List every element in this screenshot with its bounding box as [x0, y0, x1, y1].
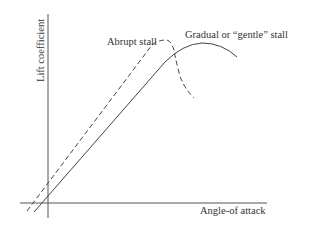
- y-axis-label: Lift coefficient: [35, 19, 46, 82]
- abrupt-stall-curve: [27, 40, 194, 211]
- gradual-stall-curve: [34, 43, 237, 212]
- gradual-stall-label: Gradual or “gentle” stall: [185, 30, 288, 41]
- x-axis-label: Angle-of attack: [200, 206, 266, 217]
- abrupt-stall-label: Abrupt stall: [107, 37, 157, 48]
